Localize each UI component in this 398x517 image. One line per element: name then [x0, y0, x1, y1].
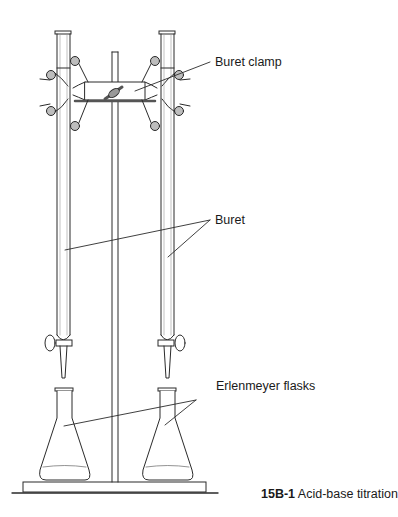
leader-buret-clamp — [135, 62, 210, 91]
right-buret — [158, 31, 185, 378]
figure-caption: 15B-1 Acid-base titration — [261, 488, 398, 501]
figure-number: 15B-1 — [261, 487, 295, 501]
support-rod — [112, 52, 118, 482]
erlenmeyer-flasks-label: Erlenmeyer flasks — [216, 380, 315, 393]
figure-caption-text: Acid-base titration — [298, 487, 398, 501]
leader-buret-left — [65, 220, 210, 250]
left-erlenmeyer-flask — [40, 388, 90, 480]
stand-base — [12, 482, 218, 493]
left-buret — [45, 31, 72, 378]
buret-label: Buret — [215, 214, 245, 227]
buret-clamp-label: Buret clamp — [215, 56, 282, 69]
leader-lines — [64, 62, 210, 426]
